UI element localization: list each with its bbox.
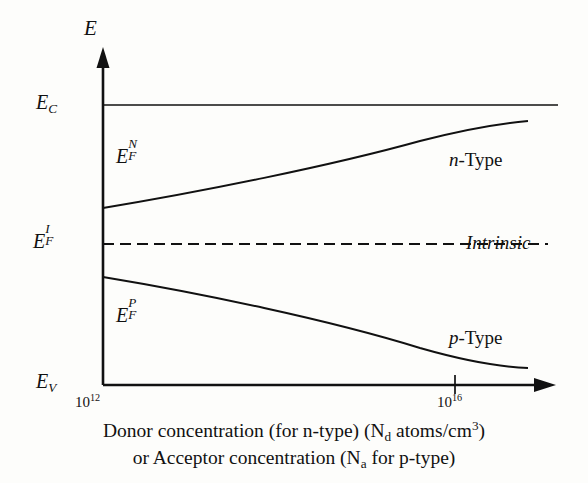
caption-line-1: Donor concentration (for n-type) (Nd ato…	[0, 417, 588, 445]
caption-l1-part-a: Donor concentration (for n-type) (N	[103, 420, 385, 441]
ef-n-subscript: F	[128, 149, 136, 162]
tick-high-mantissa: 10	[437, 394, 452, 410]
curve-label-ef-n: E N F	[116, 143, 143, 166]
y-axis-title: E	[84, 18, 97, 39]
caption-line-2: or Acceptor concentration (Na for p-type…	[0, 445, 588, 472]
n-type-italic-letter: n	[449, 149, 459, 170]
n-type-suffix: -Type	[459, 149, 503, 170]
level-efi-subscript: F	[45, 234, 53, 247]
level-efi-base: E	[33, 230, 45, 252]
annotation-n-type: n-Type	[449, 150, 503, 169]
annotation-intrinsic: Intrinsic	[466, 233, 530, 252]
caption-l1-superscript: 3	[472, 418, 479, 433]
x-tick-label-low: 1012	[75, 392, 100, 411]
annotation-p-type: p-Type	[449, 328, 503, 347]
level-label-ev: EV	[36, 371, 56, 394]
level-ev-base: E	[36, 370, 48, 392]
x-tick-label-high: 1016	[437, 392, 462, 411]
level-efi-scripts: I F	[45, 228, 59, 248]
caption-l1-part-c: )	[479, 420, 486, 441]
p-type-suffix: -Type	[459, 327, 503, 348]
x-axis-arrowhead	[534, 378, 556, 392]
ef-n-scripts: N F	[128, 143, 142, 163]
ef-p-base: E	[116, 304, 128, 326]
level-ec-subscript: C	[48, 101, 57, 116]
caption-l1-part-b: atoms/cm	[391, 420, 472, 441]
figure-caption: Donor concentration (for n-type) (Nd ato…	[0, 417, 588, 472]
p-type-fermi-curve	[103, 277, 528, 368]
level-ev-subscript: V	[48, 380, 56, 395]
tick-low-mantissa: 10	[75, 394, 90, 410]
level-ec-base: E	[36, 91, 48, 113]
curve-label-ef-p: E P F	[116, 302, 143, 325]
band-diagram-figure: E EC E I F EV E N F E P F n-Type p-Type …	[0, 0, 588, 483]
ef-p-subscript: F	[128, 308, 136, 321]
p-type-italic-letter: p	[449, 327, 459, 348]
level-label-ef-intrinsic: E I F	[33, 228, 60, 251]
caption-l2-part-b: for p-type)	[367, 447, 456, 468]
ef-n-base: E	[116, 145, 128, 167]
level-label-ec: EC	[36, 92, 57, 115]
tick-high-exponent: 16	[452, 392, 462, 403]
y-axis-arrowhead	[97, 47, 110, 68]
tick-low-exponent: 12	[90, 392, 100, 403]
ef-p-scripts: P F	[128, 302, 142, 322]
caption-l2-part-a: or Acceptor concentration (N	[133, 447, 361, 468]
